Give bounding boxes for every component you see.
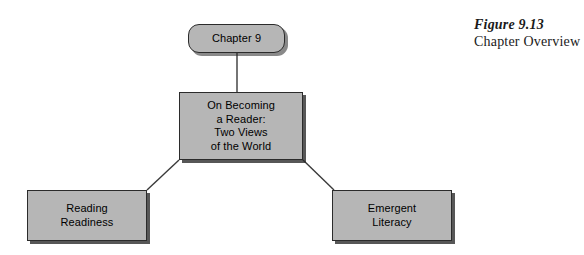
node-on-becoming-a-reader[interactable]: On Becoming a Reader: Two Views of the W…	[179, 92, 303, 160]
figure-title: Chapter Overview	[474, 33, 580, 50]
node-emergent-literacy[interactable]: Emergent Literacy	[332, 190, 452, 241]
node-reading-readiness-label: Reading Readiness	[57, 202, 118, 229]
figure-number: Figure 9.13	[474, 16, 580, 33]
node-reading-readiness[interactable]: Reading Readiness	[27, 190, 147, 241]
figure-caption: Figure 9.13 Chapter Overview	[474, 16, 580, 50]
node-emergent-literacy-label: Emergent Literacy	[364, 202, 421, 229]
node-chapter-9[interactable]: Chapter 9	[188, 24, 285, 53]
node-on-becoming-a-reader-label: On Becoming a Reader: Two Views of the W…	[203, 99, 279, 153]
connector-main-to-left	[147, 160, 179, 190]
figure-canvas: Chapter 9 On Becoming a Reader: Two View…	[0, 0, 584, 255]
connector-main-to-right	[303, 160, 334, 190]
node-chapter-9-label: Chapter 9	[208, 32, 265, 46]
